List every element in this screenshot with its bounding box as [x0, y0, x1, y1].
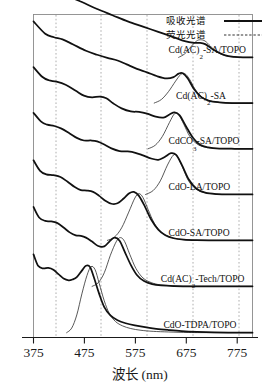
- legend-label-fluorescence: 荧光光谱: [166, 29, 206, 40]
- curve-label: CdO-LA/TOPO: [169, 181, 231, 192]
- x-axis-tick-labels: 375475575675775: [23, 345, 247, 360]
- x-axis-tick-label: 375: [23, 345, 44, 360]
- curve-label: Cd(AC)2-Tech/TOPO: [161, 273, 245, 290]
- curve-label: Cd(AC)2-SA: [176, 90, 226, 107]
- x-axis: 375475575675775 波长 (nm): [22, 338, 258, 383]
- x-axis-title: 波长 (nm): [112, 367, 168, 382]
- spectra-svg: 吸收光谱 荧光光谱 Cd(AC)2-SA/TOPOCd(AC)2-SACdCO3…: [0, 0, 280, 390]
- x-axis-ticks: [34, 338, 238, 344]
- x-axis-tick-label: 475: [74, 345, 95, 360]
- x-axis-tick-label: 575: [125, 345, 146, 360]
- x-axis-tick-label: 775: [227, 345, 248, 360]
- curve-label: CdO-SA/TOPO: [169, 227, 230, 238]
- curve-label: CdO-TDPA/TOPO: [163, 319, 236, 330]
- x-axis-tick-label: 675: [176, 345, 197, 360]
- legend: 吸收光谱 荧光光谱: [166, 15, 262, 40]
- curve-label: Cd(AC)2-SA/TOPO: [169, 44, 246, 61]
- spectra-figure: 吸收光谱 荧光光谱 Cd(AC)2-SA/TOPOCd(AC)2-SACdCO3…: [0, 0, 280, 390]
- curve-label: CdCO3-SA/TOPO: [169, 135, 240, 152]
- curve-labels: Cd(AC)2-SA/TOPOCd(AC)2-SACdCO3-SA/TOPOCd…: [161, 44, 246, 330]
- plot-frame: [34, 15, 253, 338]
- legend-label-absorption: 吸收光谱: [166, 15, 206, 26]
